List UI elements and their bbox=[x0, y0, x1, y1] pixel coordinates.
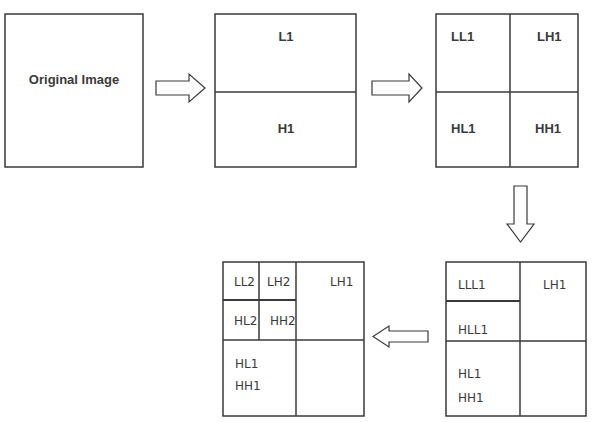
right-arrow-icon bbox=[372, 74, 422, 102]
ll2-label: LL2 bbox=[234, 275, 255, 289]
lh1-label-stage4: LH1 bbox=[330, 275, 353, 289]
hl1-label-stage4: HL1 bbox=[235, 357, 258, 371]
lll1-label: LLL1 bbox=[458, 278, 486, 292]
h1-label: H1 bbox=[278, 121, 295, 136]
hll1-label: HLL1 bbox=[458, 323, 488, 337]
hh2-label: HH2 bbox=[270, 314, 296, 328]
original-image-box bbox=[5, 14, 143, 167]
ll1-label: LL1 bbox=[451, 29, 474, 44]
hl2-label: HL2 bbox=[234, 314, 257, 328]
l1-label: L1 bbox=[278, 29, 293, 44]
hh1-label-stage4: HH1 bbox=[235, 379, 261, 393]
hl1-label: HL1 bbox=[451, 121, 476, 136]
hh1-label-stage3: HH1 bbox=[458, 391, 484, 405]
right-arrow-icon bbox=[156, 74, 205, 102]
original-image-label: Original Image bbox=[29, 72, 119, 87]
lh1-label: LH1 bbox=[537, 29, 562, 44]
down-arrow-icon bbox=[507, 186, 534, 242]
lh2-label: LH2 bbox=[267, 275, 290, 289]
lh1-label-stage3: LH1 bbox=[543, 278, 566, 292]
wavelet-diagram: Original Image L1 H1 LL1 LH1 HL1 HH1 LLL… bbox=[0, 0, 595, 422]
left-arrow-icon bbox=[373, 326, 428, 347]
hl1-label-stage3: HL1 bbox=[458, 367, 481, 381]
hh1-label: HH1 bbox=[535, 121, 561, 136]
